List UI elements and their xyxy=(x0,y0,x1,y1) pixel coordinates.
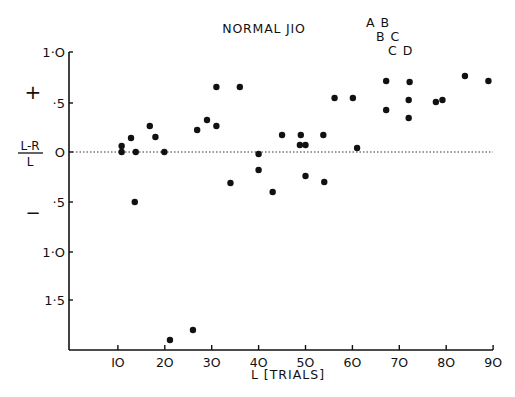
data-point xyxy=(383,78,389,84)
x-axis-label: L [TRIALS] xyxy=(251,367,325,382)
data-point xyxy=(194,127,200,133)
data-point xyxy=(439,97,445,103)
data-point xyxy=(320,132,326,138)
data-point xyxy=(152,134,158,140)
y-tick-label: ·5 xyxy=(53,96,65,111)
data-point xyxy=(167,337,173,343)
data-point xyxy=(354,145,360,151)
data-point xyxy=(269,189,275,195)
data-point xyxy=(302,173,308,179)
data-point xyxy=(383,107,389,113)
y-axis-label-denominator: L xyxy=(27,155,34,169)
data-point xyxy=(405,115,411,121)
data-point xyxy=(321,179,327,185)
scatter-chart: 1·O·5O·51·O1·5IO2O3O4O5O6O7O8O9ONORMAL J… xyxy=(0,0,515,397)
data-points xyxy=(118,73,491,343)
x-tick-label: 8O xyxy=(437,355,455,370)
data-point xyxy=(190,327,196,333)
x-tick-label: 9O xyxy=(484,355,502,370)
x-tick-label: 3O xyxy=(203,355,221,370)
data-point xyxy=(204,117,210,123)
x-tick-label: 7O xyxy=(390,355,408,370)
data-point xyxy=(298,132,304,138)
annotation-label: B C xyxy=(376,29,400,44)
data-point xyxy=(128,135,134,141)
data-point xyxy=(255,167,261,173)
data-point xyxy=(213,123,219,129)
annotation-label: C D xyxy=(388,43,413,58)
data-point xyxy=(405,97,411,103)
y-tick-label: 1·5 xyxy=(44,293,65,308)
x-tick-label: 6O xyxy=(344,355,362,370)
data-point xyxy=(237,84,243,90)
data-point xyxy=(133,149,139,155)
data-point xyxy=(118,149,124,155)
y-tick-label: ·5 xyxy=(53,195,65,210)
data-point xyxy=(331,95,337,101)
data-point xyxy=(279,132,285,138)
data-point xyxy=(255,151,261,157)
x-tick-label: 2O xyxy=(156,355,174,370)
negative-sign-label: − xyxy=(25,202,40,223)
y-tick-label: O xyxy=(55,145,65,160)
data-point xyxy=(433,99,439,105)
data-point xyxy=(132,199,138,205)
y-axis-label-numerator: L-R xyxy=(20,139,39,153)
data-point xyxy=(302,142,308,148)
annotation-label: A B xyxy=(366,15,390,30)
data-point xyxy=(227,180,233,186)
labels: 1·O·5O·51·O1·5IO2O3O4O5O6O7O8O9ONORMAL J… xyxy=(18,15,502,382)
positive-sign-label: + xyxy=(25,80,42,104)
data-point xyxy=(147,123,153,129)
data-point xyxy=(161,149,167,155)
data-point xyxy=(350,95,356,101)
data-point xyxy=(297,142,303,148)
chart-title: NORMAL JIO xyxy=(222,21,305,36)
data-point xyxy=(406,79,412,85)
data-point xyxy=(485,78,491,84)
x-tick-label: IO xyxy=(111,355,125,370)
y-tick-label: 1·O xyxy=(42,45,65,60)
y-tick-label: 1·O xyxy=(42,245,65,260)
data-point xyxy=(462,73,468,79)
data-point xyxy=(213,84,219,90)
data-point xyxy=(118,143,124,149)
